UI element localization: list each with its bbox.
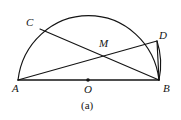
segment-chord-AD bbox=[18, 41, 157, 80]
point-label-M: M bbox=[99, 38, 108, 49]
point-label-O: O bbox=[84, 84, 92, 95]
figure-caption: (a) bbox=[81, 100, 93, 111]
point-label-B: B bbox=[163, 83, 170, 94]
center-dot-O bbox=[86, 78, 90, 82]
point-label-C: C bbox=[26, 17, 33, 28]
point-label-A: A bbox=[12, 83, 19, 94]
geometry-figure: A B C D M O (a) bbox=[0, 0, 181, 120]
point-label-D: D bbox=[159, 30, 167, 41]
